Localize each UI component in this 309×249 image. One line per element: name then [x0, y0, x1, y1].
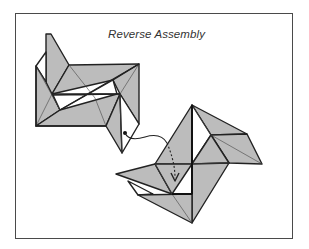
origami-diagram: [0, 0, 309, 249]
left-unit: [36, 34, 139, 153]
